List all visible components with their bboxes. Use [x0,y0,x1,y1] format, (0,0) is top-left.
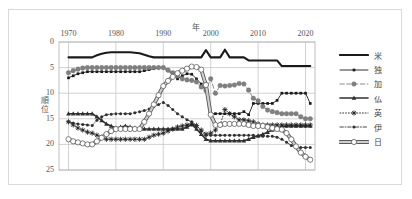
legend-label-仏: 仏 [374,93,382,104]
legend-item-仏[interactable]: 仏 [339,91,403,105]
series-独 [67,66,311,116]
legend-label-米: 米 [374,50,382,61]
chart-series-group [66,50,313,163]
legend-item-独[interactable]: 独 [339,62,403,76]
legend-item-英[interactable]: 英 [339,106,403,120]
legend-swatch-日 [339,136,369,148]
legend-label-独: 独 [374,64,382,75]
legend-label-伊: 伊 [374,122,382,133]
legend-label-日: 日 [374,136,382,147]
legend-item-日[interactable]: 日 [339,134,403,148]
chart-container: 年 順位 1970198019902000201020200510152025 … [8,9,402,185]
legend-swatch-独 [339,64,369,76]
chart-legend: 米独加仏英伊日 [339,48,403,149]
series-米 [68,50,310,66]
legend-label-加: 加 [374,78,382,89]
legend-item-伊[interactable]: 伊 [339,120,403,134]
legend-swatch-米 [339,49,369,61]
legend-swatch-加 [339,78,369,90]
legend-label-英: 英 [374,107,382,118]
legend-swatch-伊 [339,121,369,133]
legend-item-米[interactable]: 米 [339,48,403,62]
legend-item-加[interactable]: 加 [339,77,403,91]
legend-swatch-英 [339,107,369,119]
legend-swatch-仏 [339,92,369,104]
